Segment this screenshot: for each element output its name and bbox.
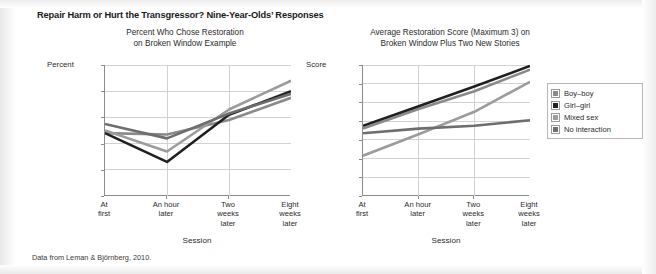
- x-tick-label: Eightweekslater: [518, 200, 540, 228]
- y-tick-mark: [101, 144, 104, 145]
- chart-legend: Boy–boyGirl–girlMixed sexNo interaction: [547, 83, 643, 139]
- legend-swatch-icon: [551, 101, 560, 110]
- plot-area-percent: [104, 65, 290, 196]
- y-axis-label-percent: Percent: [47, 60, 74, 69]
- y-tick-mark: [101, 117, 104, 118]
- x-tick-mark: [166, 196, 167, 199]
- line-chart-percent: [105, 65, 291, 196]
- x-tick-label: Twoweekslater: [463, 200, 485, 228]
- source-note: Data from Leman & Björnberg, 2010.: [32, 253, 151, 262]
- x-tick-mark: [473, 196, 474, 199]
- page-edge-top: [0, 0, 656, 8]
- y-tick-mark: [359, 140, 362, 141]
- page-edge-left: [0, 0, 16, 274]
- chart-title-percent-line1: Percent Who Chose Restoration: [66, 28, 304, 39]
- x-tick-label: Atfirst: [98, 200, 110, 219]
- chart-title-score-line1: Average Restoration Score (Maximum 3) on: [330, 28, 570, 39]
- chart-title-percent: Percent Who Chose Restoration on Broken …: [66, 28, 304, 49]
- x-tick-mark: [228, 196, 229, 199]
- figure-title: Repair Harm or Hurt the Transgressor? Ni…: [37, 10, 324, 20]
- y-tick-mark: [101, 170, 104, 171]
- x-tick-label: Twoweekslater: [217, 200, 239, 228]
- chart-title-score: Average Restoration Score (Maximum 3) on…: [330, 28, 570, 49]
- legend-item-label: Boy–boy: [564, 89, 594, 98]
- x-axis-title-score: Session: [432, 236, 461, 245]
- line-chart-score: [363, 65, 530, 196]
- y-tick-mark: [359, 196, 362, 197]
- page-edge-right: [642, 0, 656, 274]
- legend-item-label: Girl–girl: [564, 101, 590, 110]
- y-tick-mark: [359, 121, 362, 122]
- y-tick-mark: [359, 84, 362, 85]
- chart-title-percent-line2: on Broken Window Example: [66, 39, 304, 50]
- y-tick-mark: [359, 65, 362, 66]
- legend-item-label: No interaction: [564, 125, 611, 134]
- legend-swatch-icon: [551, 113, 560, 122]
- legend-item-3: No interaction: [551, 123, 638, 135]
- chart-title-score-line2: Broken Window Plus Two New Stories: [330, 39, 570, 50]
- y-tick-mark: [101, 196, 104, 197]
- x-axis-title-percent: Session: [183, 236, 212, 245]
- x-tick-label: Eightweekslater: [279, 200, 301, 228]
- y-tick-mark: [101, 91, 104, 92]
- plot-area-score: [362, 65, 529, 196]
- x-tick-mark: [418, 196, 419, 199]
- y-tick-mark: [101, 65, 104, 66]
- y-tick-mark: [359, 159, 362, 160]
- y-tick-mark: [359, 102, 362, 103]
- legend-item-label: Mixed sex: [564, 113, 598, 122]
- legend-item-1: Girl–girl: [551, 99, 638, 111]
- x-tick-label: An hourlater: [404, 200, 431, 219]
- legend-swatch-icon: [551, 125, 560, 134]
- y-axis-label-score: Score: [306, 60, 326, 69]
- x-tick-label: Atfirst: [356, 200, 368, 219]
- x-tick-label: An hourlater: [153, 200, 180, 219]
- legend-item-2: Mixed sex: [551, 111, 638, 123]
- legend-swatch-icon: [551, 89, 560, 98]
- figure-container: Repair Harm or Hurt the Transgressor? Ni…: [0, 0, 656, 274]
- y-tick-mark: [359, 177, 362, 178]
- page-edge-bottom: [0, 265, 656, 274]
- legend-item-0: Boy–boy: [551, 87, 638, 99]
